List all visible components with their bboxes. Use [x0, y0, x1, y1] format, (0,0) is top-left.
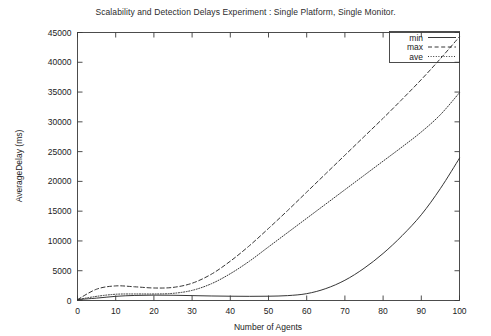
x-tick-label: 80	[378, 306, 388, 316]
x-tick-label: 70	[340, 306, 350, 316]
chart-figure: Scalability and Detection Delays Experim…	[0, 0, 491, 336]
x-tick-label: 90	[417, 306, 427, 316]
x-tick-label: 20	[149, 306, 159, 316]
legend-label-max: max	[407, 42, 424, 52]
y-tick-label: 5000	[53, 266, 72, 276]
chart-legend: min max ave	[390, 32, 460, 63]
x-tick-label: 40	[226, 306, 236, 316]
x-axis-title: Number of Agents	[234, 322, 302, 332]
data-series-group	[78, 37, 460, 300]
y-axis: 0500010000150002000025000300003500040000…	[48, 28, 460, 306]
x-tick-label: 0	[75, 306, 80, 316]
series-line-ave	[78, 93, 460, 300]
y-tick-label: 10000	[48, 236, 72, 246]
x-tick-label: 50	[264, 306, 274, 316]
y-tick-label: 0	[67, 296, 72, 306]
x-tick-label: 100	[452, 306, 466, 316]
series-line-max	[78, 37, 460, 300]
y-tick-label: 25000	[48, 147, 72, 157]
y-tick-label: 45000	[48, 28, 72, 38]
y-tick-label: 35000	[48, 87, 72, 97]
legend-label-min: min	[409, 33, 423, 43]
x-tick-label: 60	[302, 306, 312, 316]
y-tick-label: 30000	[48, 117, 72, 127]
y-tick-label: 15000	[48, 206, 72, 216]
x-axis: 0102030405060708090100	[75, 33, 467, 316]
x-tick-label: 30	[187, 306, 197, 316]
plot-area: 0500010000150002000025000300003500040000…	[0, 0, 491, 336]
y-tick-label: 20000	[48, 176, 72, 186]
y-tick-label: 40000	[48, 57, 72, 67]
plot-frame	[78, 33, 460, 301]
y-axis-title: AverageDelay (ms)	[14, 130, 24, 203]
legend-label-ave: ave	[409, 52, 423, 62]
x-tick-label: 10	[111, 306, 121, 316]
